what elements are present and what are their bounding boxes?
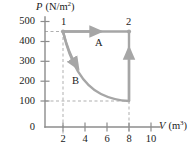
x-tick-label-8: 8 [122,134,136,145]
x-tick-label-6: 6 [100,134,114,145]
x-tick-label-2: 2 [56,134,70,145]
y-tick-label-500: 500 [9,16,35,27]
path-a-label: A [95,38,103,49]
y-tick-label-200: 200 [9,76,35,87]
state-1-label: 1 [61,17,66,28]
y-tick-label-0: 0 [9,122,35,133]
x-axis-units-open: (m [168,120,180,131]
state-2-label: 2 [126,17,131,28]
y-axis-units-open: (N/m [45,1,67,12]
y-axis-units-close: ) [71,1,75,12]
path-b-label: B [72,76,79,87]
x-axis-units-close: ) [184,120,188,131]
y-tick-label-100: 100 [9,96,35,107]
y-tick-label-400: 400 [9,36,35,47]
y-axis-title: P(N/m2) [36,2,75,13]
state-1-dot [61,29,65,33]
y-tick-label-300: 300 [9,56,35,67]
x-axis-title: V(m3) [159,121,187,132]
x-tick-label-10: 10 [144,134,158,145]
x-axis-symbol: V [159,120,165,131]
pv-diagram-figure: P(N/m2) V(m3) 500 400 300 200 100 0 2 4 … [0,0,190,155]
x-tick-label-4: 4 [78,134,92,145]
y-axis-symbol: P [36,1,42,12]
state-2-dot [127,29,131,33]
